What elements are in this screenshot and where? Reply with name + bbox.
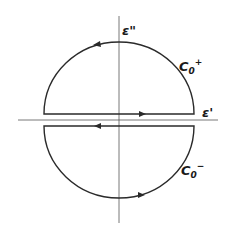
- contour-superscript: −: [197, 161, 205, 171]
- imaginary-axis-label: ε": [122, 24, 136, 37]
- lower-contour-label: C0−: [181, 164, 204, 177]
- arrow-right-lower-arc-icon: [138, 192, 145, 198]
- contour-diagram: ε" ε' C0+ C0−: [0, 0, 233, 234]
- upper-contour-label: C0+: [179, 60, 202, 73]
- diagram-canvas: [0, 0, 233, 234]
- contour-subscript: 0: [191, 170, 197, 180]
- arrow-right-upper-line-icon: [139, 111, 146, 117]
- contour-subscript: 0: [189, 66, 195, 76]
- real-axis-label: ε': [202, 106, 213, 119]
- contour-name: C: [181, 163, 191, 178]
- contour-superscript: +: [195, 57, 203, 67]
- contour-name: C: [179, 59, 189, 74]
- arrow-left-lower-line-icon: [94, 123, 101, 129]
